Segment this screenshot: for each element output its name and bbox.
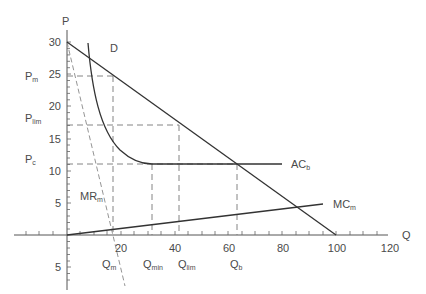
mc-curve	[67, 204, 323, 235]
y-tick-5: 5	[55, 197, 61, 209]
demand-curve	[67, 42, 336, 235]
economics-diagram: P Q 30 25 20 15 10 5 5 20 40 60 80 100 1…	[0, 0, 426, 294]
ac-curve	[88, 43, 282, 164]
y-axis-title: P	[62, 15, 69, 27]
y-tick-25: 25	[49, 68, 61, 80]
qmin-label: Qmin	[143, 258, 163, 271]
reference-lines	[67, 76, 237, 235]
x-axis-title: Q	[402, 229, 411, 241]
x-tick-60: 60	[223, 242, 235, 254]
mc-label: MCm	[333, 198, 356, 211]
x-tick-100: 100	[328, 242, 346, 254]
y-tick-10: 10	[49, 165, 61, 177]
demand-label: D	[110, 42, 118, 54]
plim-label: Plim	[25, 112, 41, 125]
x-tick-80: 80	[277, 242, 289, 254]
x-tick-labels: 20 40 60 80 100 120	[115, 242, 399, 254]
ac-label: ACb	[291, 158, 310, 171]
y-tick-20: 20	[49, 100, 61, 112]
y-tick-30: 30	[49, 36, 61, 48]
y-tick-labels: 30 25 20 15 10 5 5	[49, 36, 61, 273]
qlim-label: Qlim	[178, 258, 196, 271]
diagram-canvas: P Q 30 25 20 15 10 5 5 20 40 60 80 100 1…	[0, 0, 426, 294]
x-tick-120: 120	[381, 242, 399, 254]
mr-label: MRm	[80, 190, 103, 203]
qb-label: Qb	[230, 258, 243, 271]
qm-label: Qm	[102, 258, 117, 271]
y-axis-ticks	[67, 42, 71, 280]
x-tick-20: 20	[115, 242, 127, 254]
y-tick-15: 15	[49, 133, 61, 145]
pc-label: Pc	[25, 153, 36, 166]
y-tick-neg-5: 5	[55, 261, 61, 273]
pm-label: Pm	[25, 70, 38, 83]
x-tick-40: 40	[169, 242, 181, 254]
